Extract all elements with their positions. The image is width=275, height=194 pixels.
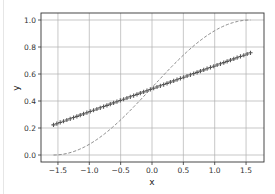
y-axis-label: y [11,85,21,91]
x-tick-label: 0.0 [146,166,158,175]
x-tick-label: 0.5 [177,166,189,175]
y-tick-label: 0.0 [24,151,36,160]
x-tick-label: 1.0 [209,166,221,175]
y-tick-label: 1.0 [24,16,36,25]
y-tick-label: 0.6 [24,70,36,79]
x-axis-label: x [149,177,155,187]
y-tick-label: 0.2 [24,124,36,133]
x-tick-label: −0.5 [112,166,130,175]
x-tick-label: 1.5 [240,166,252,175]
x-tick-label: −1.0 [80,166,98,175]
chart: −1.5−1.0−0.50.00.51.01.50.00.20.40.60.81… [0,0,275,194]
y-tick-label: 0.8 [24,43,36,52]
y-tick-label: 0.4 [24,97,36,106]
x-tick-label: −1.5 [49,166,67,175]
